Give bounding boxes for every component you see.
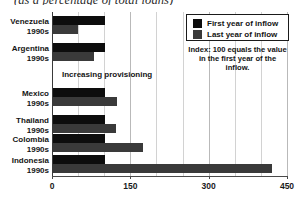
bar-first-year-indonesia <box>53 155 105 164</box>
category-country: Colombia <box>13 135 49 144</box>
category-period: 1990s <box>0 99 49 109</box>
category-label-mexico: Mexico1990s <box>0 89 49 108</box>
x-tick-label: 0 <box>50 181 55 191</box>
x-tick <box>209 176 210 179</box>
category-country: Indonesia <box>12 156 49 165</box>
legend-note: Index: 100 equals the value in the first… <box>186 45 289 72</box>
x-tick <box>130 176 131 179</box>
chart-title: (as a percentage of total loans) <box>14 0 284 5</box>
bar-last-year-argentina <box>53 52 94 61</box>
bar-last-year-venezuela <box>53 25 78 34</box>
bar-first-year-argentina <box>53 43 105 52</box>
category-country: Mexico <box>22 89 49 98</box>
category-period: 1990s <box>0 126 49 136</box>
legend-swatch-last-year-icon <box>193 30 202 39</box>
gridline <box>156 12 157 176</box>
legend-label-first-year: First year of inflow <box>207 19 278 28</box>
category-period: 1990s <box>0 27 49 37</box>
x-tick-label: 300 <box>202 181 216 191</box>
x-tick <box>52 176 53 179</box>
bar-first-year-colombia <box>53 134 105 143</box>
x-tick <box>287 176 288 179</box>
category-country: Argentina <box>12 44 49 53</box>
category-label-colombia: Colombia1990s <box>0 135 49 154</box>
x-axis-line <box>52 176 288 177</box>
bar-last-year-indonesia <box>53 164 272 173</box>
legend: First year of inflow Last year of inflow <box>186 14 289 41</box>
annotation-increasing-provisioning: Increasing provisioning <box>62 70 152 79</box>
bar-first-year-mexico <box>53 88 105 97</box>
legend-item-first-year: First year of inflow <box>193 18 278 28</box>
legend-item-last-year: Last year of inflow <box>193 29 277 39</box>
legend-label-last-year: Last year of inflow <box>207 30 277 39</box>
category-period: 1990s <box>0 166 49 176</box>
category-label-argentina: Argentina1990s <box>0 44 49 63</box>
category-label-indonesia: Indonesia1990s <box>0 156 49 175</box>
category-country: Venezuela <box>10 17 49 26</box>
gridline <box>183 12 184 176</box>
bar-last-year-mexico <box>53 97 117 106</box>
x-tick-label: 150 <box>123 181 137 191</box>
bar-last-year-thailand <box>53 124 116 133</box>
category-country: Thailand <box>16 116 49 125</box>
bar-last-year-colombia <box>53 143 143 152</box>
legend-swatch-first-year-icon <box>193 19 202 28</box>
category-period: 1990s <box>0 145 49 155</box>
category-period: 1990s <box>0 54 49 64</box>
category-label-venezuela: Venezuela1990s <box>0 17 49 36</box>
bar-first-year-venezuela <box>53 16 105 25</box>
category-label-thailand: Thailand1990s <box>0 116 49 135</box>
x-tick-label: 450 <box>280 181 294 191</box>
bar-first-year-thailand <box>53 115 105 124</box>
